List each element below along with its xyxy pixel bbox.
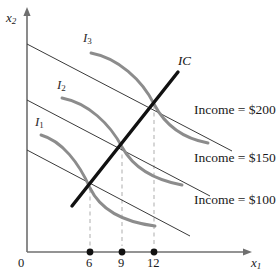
indifference-curve-label-I2: I2: [57, 78, 66, 91]
x-tick-label-6: 6: [86, 257, 92, 270]
indifference-curve-label-I3: I3: [83, 31, 92, 44]
origin-label: 0: [18, 257, 24, 270]
indifference-curve-label-I1: I1: [35, 115, 44, 128]
curve-label-sub-I2: 2: [61, 83, 66, 93]
x-tick-point-12: [151, 249, 158, 256]
indifference-curve-I1: [41, 135, 155, 226]
x-axis-label: x1: [251, 256, 261, 269]
x-axis-label-base: x: [251, 255, 257, 270]
income-label-150: Income = $150: [194, 151, 276, 165]
x-axis-label-sub: 1: [257, 261, 262, 271]
income-label-200: Income = $200: [194, 103, 276, 117]
ic-curve-group: [72, 72, 178, 206]
y-axis-label: x2: [6, 11, 16, 24]
income-consumption-plot: [0, 0, 277, 275]
figure-canvas: x2 x1 0 6 9 12 I3 I2 I1 IC Income = $200…: [0, 0, 277, 275]
x-tick-point-9: [119, 249, 126, 256]
budget-line-income-100: [27, 150, 190, 236]
income-label-100: Income = $100: [194, 193, 276, 207]
x-tick-label-9: 9: [118, 257, 124, 270]
x-tick-label-12: 12: [147, 257, 160, 270]
y-axis-label-base: x: [6, 10, 12, 25]
x-tick-point-6: [87, 249, 94, 256]
curve-label-sub-I3: 3: [87, 36, 92, 46]
y-axis-label-sub: 2: [12, 16, 17, 26]
axes-group: [23, 7, 252, 256]
y-axis-arrow: [23, 7, 30, 16]
ic-curve-label: IC: [178, 54, 191, 67]
ic-curve: [72, 72, 178, 206]
curve-label-sub-I1: 1: [39, 120, 44, 130]
